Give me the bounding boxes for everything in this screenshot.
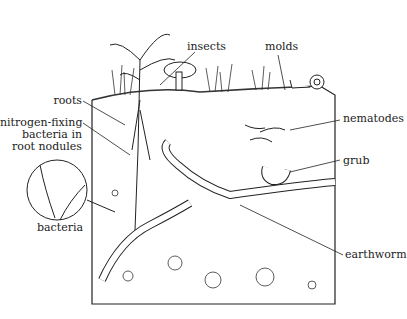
molds-leader (278, 55, 285, 90)
label-grub: grub (343, 155, 369, 167)
earthworm (102, 142, 335, 280)
earthworm-leader (240, 205, 343, 255)
roots-leader (83, 101, 125, 125)
stones (112, 190, 316, 289)
label-roots: roots (44, 95, 82, 107)
nematodes-leader (290, 120, 340, 130)
snail (290, 75, 324, 89)
grub-leader (290, 160, 340, 172)
label-nematodes: nematodes (343, 113, 404, 125)
label-bacteria: bacteria (37, 222, 83, 234)
grub (264, 167, 288, 182)
label-molds: molds (265, 41, 298, 53)
soil-surface (92, 86, 320, 100)
bacteria-magnified-circle (27, 160, 115, 220)
plant (110, 34, 175, 230)
label-insects: insects (187, 41, 226, 53)
leader-lines (83, 52, 343, 255)
nitrogen-leader (83, 123, 130, 155)
nematodes (245, 125, 285, 142)
label-earthworm: earthworm (345, 249, 407, 261)
label-nitrogen-line3: root nodules (0, 141, 82, 153)
